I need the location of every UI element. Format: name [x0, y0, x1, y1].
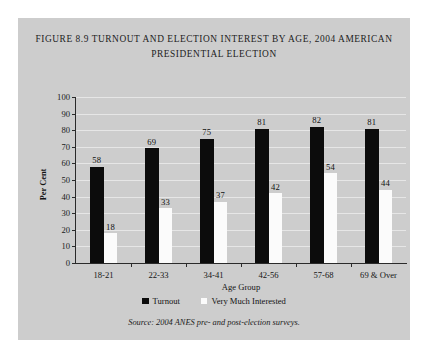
- bar-value-label: 75: [202, 127, 211, 137]
- bar: 75: [200, 139, 214, 264]
- legend-item: Turnout: [142, 296, 180, 306]
- bar-group: 581818-21: [90, 97, 118, 263]
- gridline: [76, 180, 406, 181]
- bar-value-label: 69: [147, 137, 156, 147]
- y-axis-tick-label: 60: [61, 158, 70, 168]
- figure-panel: Figure 8.9 Turnout and Election Interest…: [18, 18, 410, 340]
- x-axis-category-label: 42-56: [258, 270, 278, 280]
- x-axis-line: [75, 263, 407, 264]
- legend-swatch-icon: [142, 298, 149, 305]
- bar-value-label: 82: [312, 115, 321, 125]
- gridline: [76, 147, 406, 148]
- gridline: [76, 97, 406, 98]
- y-axis-tick-label: 20: [61, 225, 70, 235]
- gridline: [76, 230, 406, 231]
- figure-title: Figure 8.9 Turnout and Election Interest…: [34, 32, 394, 61]
- bar-value-label: 81: [257, 117, 266, 127]
- bar: 42: [269, 193, 283, 263]
- plot-frame: 0102030405060708090100 581818-21693322-3…: [76, 97, 406, 263]
- y-axis-tick-label: 0: [66, 258, 70, 268]
- bar: 81: [365, 129, 379, 263]
- bar: 33: [159, 208, 173, 263]
- y-axis-tick-label: 10: [61, 241, 70, 251]
- figure-title-line-1: Figure 8.9 Turnout and Election Interest…: [34, 32, 394, 47]
- bar-value-label: 54: [326, 162, 335, 172]
- gridline: [76, 213, 406, 214]
- y-axis-tick-label: 40: [61, 192, 70, 202]
- source-note: Source: 2004 ANES pre- and post-election…: [18, 318, 410, 327]
- bar: 69: [145, 148, 159, 263]
- legend-label: Very Much Interested: [211, 296, 285, 306]
- legend-swatch-icon: [201, 298, 208, 305]
- bar: 81: [255, 129, 269, 263]
- x-axis-category-label: 57-68: [313, 270, 333, 280]
- legend-item: Very Much Interested: [201, 296, 286, 306]
- bar-value-label: 81: [367, 117, 376, 127]
- y-axis-tick-label: 80: [61, 125, 70, 135]
- gridline: [76, 114, 406, 115]
- bar-group: 753734-41: [200, 97, 228, 263]
- y-axis-tick-label: 70: [61, 142, 70, 152]
- figure-title-line-2: Presidential Election: [34, 47, 394, 62]
- bar: 44: [379, 190, 393, 263]
- y-axis-tick-label: 50: [61, 175, 70, 185]
- bar-group: 825457-68: [310, 97, 338, 263]
- bar: 82: [310, 127, 324, 263]
- bar: 18: [104, 233, 118, 263]
- gridline: [76, 163, 406, 164]
- x-axis-title: Age Group: [76, 282, 406, 292]
- chart-legend: TurnoutVery Much Interested: [18, 296, 410, 306]
- y-axis-tick-label: 30: [61, 208, 70, 218]
- y-axis-tick-label: 100: [57, 92, 70, 102]
- bar-value-label: 58: [92, 155, 101, 165]
- bar-value-label: 44: [381, 178, 390, 188]
- bar-value-label: 18: [106, 222, 115, 232]
- y-axis-tick-label: 90: [61, 109, 70, 119]
- x-axis-category-label: 34-41: [203, 270, 223, 280]
- x-axis-category-label: 69 & Over: [360, 270, 397, 280]
- bar: 58: [90, 167, 104, 263]
- gridline: [76, 130, 406, 131]
- bar-value-label: 33: [161, 197, 170, 207]
- legend-label: Turnout: [153, 296, 180, 306]
- y-axis-line: [75, 97, 76, 263]
- bar-group: 814469 & Over: [365, 97, 393, 263]
- x-axis-category-label: 22-33: [148, 270, 168, 280]
- bar: 37: [214, 202, 228, 263]
- y-axis-title: Per Cent: [39, 169, 48, 201]
- x-axis-category-label: 18-21: [93, 270, 113, 280]
- gridline: [76, 197, 406, 198]
- bar-value-label: 37: [216, 190, 225, 200]
- gridline: [76, 246, 406, 247]
- bar: 54: [324, 173, 338, 263]
- bar-value-label: 42: [271, 182, 280, 192]
- bar-group: 814242-56: [255, 97, 283, 263]
- bar-group: 693322-33: [145, 97, 173, 263]
